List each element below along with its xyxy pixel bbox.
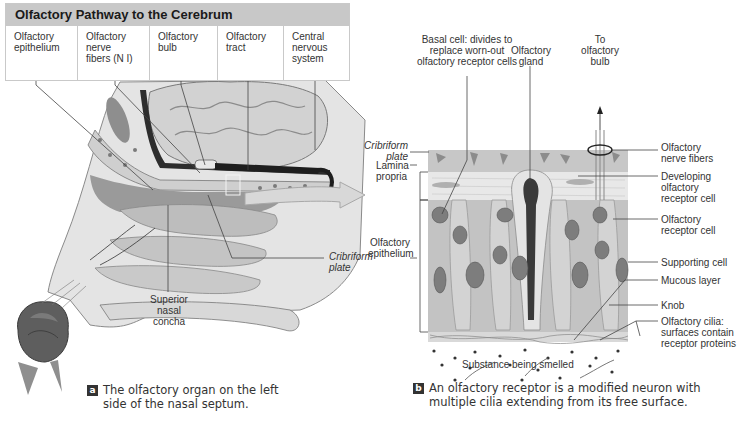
label-line: Mucous layer — [661, 275, 720, 286]
caption-b-line1: An olfactory receptor is a modified neur… — [429, 381, 700, 395]
label-lamina-propria: Lamina propria — [376, 160, 409, 182]
label-line: bulb — [575, 56, 625, 67]
nasal-cavity-illustration — [18, 80, 365, 395]
label-olfactory-nerve-fibers: Olfactory nerve fibers — [661, 142, 713, 164]
label-superior-nasal-concha: Superior nasal concha — [146, 294, 192, 327]
label-line: Olfactory — [508, 45, 554, 56]
caption-a-line1: The olfactory organ on the left — [103, 383, 278, 397]
label-line: surfaces contain — [661, 327, 736, 338]
caption-a-line2: side of the nasal septum. — [87, 397, 278, 411]
label-line: Supporting cell — [661, 257, 727, 268]
label-olfactory-receptor-cell: Olfactory receptor cell — [661, 214, 715, 236]
label-supporting-cell: Supporting cell — [661, 257, 727, 268]
label-line: epithelium — [368, 248, 410, 259]
label-line: Olfactory — [661, 214, 715, 225]
pathway-col-olfactory-epithelium: Olfactory epithelium — [6, 26, 78, 80]
pathway-col-text: system — [292, 53, 349, 64]
pathway-col-central-nervous-system: Central nervous system — [284, 26, 349, 80]
pathway-col-text: Central — [292, 31, 349, 42]
label-line: Olfactory — [368, 237, 410, 248]
label-line: Developing — [661, 171, 715, 182]
label-line: Superior — [146, 294, 192, 305]
pathway-col-text: nerve — [86, 42, 149, 53]
label-line: Lamina — [376, 160, 409, 171]
label-line: Cribriform — [329, 251, 373, 262]
pathway-col-text: Olfactory — [158, 31, 217, 42]
caption-a: aThe olfactory organ on the left side of… — [87, 383, 278, 411]
label-line: receptor proteins — [661, 338, 736, 349]
pathway-col-text: Olfactory — [86, 31, 149, 42]
label-line: Cribriform — [360, 140, 408, 151]
label-developing-receptor-cell: Developing olfactory receptor cell — [661, 171, 715, 204]
pathway-col-text: bulb — [158, 42, 217, 53]
label-line: Olfactory cilia: — [661, 316, 736, 327]
label-line: nerve fibers — [661, 153, 713, 164]
pathway-title: Olfactory Pathway to the Cerebrum — [6, 4, 349, 26]
label-line: receptor cell — [661, 193, 715, 204]
label-cribriform-plate-a: Cribriform plate — [329, 251, 373, 273]
pathway-col-text: fibers (N I) — [86, 53, 149, 64]
label-knob: Knob — [661, 300, 684, 311]
label-line: olfactory — [661, 182, 715, 193]
label-line: Basal cell: divides to — [405, 34, 529, 45]
label-substance-being-smelled: Substance being smelled — [462, 359, 574, 370]
label-mucous-layer: Mucous layer — [661, 275, 720, 286]
pathway-col-text: Olfactory — [14, 31, 77, 42]
pathway-col-text: epithelium — [14, 42, 77, 53]
caption-b-line2: multiple cilia extending from its free s… — [413, 395, 700, 409]
label-line: olfactory — [575, 45, 625, 56]
pathway-col-olfactory-nerve-fibers: Olfactory nerve fibers (N I) — [78, 26, 150, 80]
label-olfactory-cilia: Olfactory cilia: surfaces contain recept… — [661, 316, 736, 349]
label-line: plate — [329, 262, 373, 273]
pathway-col-text: tract — [226, 42, 283, 53]
label-line: To — [575, 34, 625, 45]
label-line: Knob — [661, 300, 684, 311]
label-cribriform-plate-b: Cribriform plate — [360, 140, 408, 162]
label-line: gland — [508, 56, 554, 67]
pathway-col-text: Olfactory — [226, 31, 283, 42]
label-line: propria — [376, 171, 409, 182]
label-line: Olfactory — [661, 142, 713, 153]
olfactory-pathway-table: Olfactory Pathway to the Cerebrum Olfact… — [5, 3, 350, 81]
rose-icon — [18, 302, 69, 395]
pathway-col-olfactory-tract: Olfactory tract — [218, 26, 284, 80]
label-line: concha — [146, 316, 192, 327]
epithelium-illustration — [428, 106, 628, 382]
label-line: receptor cell — [661, 225, 715, 236]
label-olfactory-gland: Olfactory gland — [508, 45, 554, 67]
label-olfactory-epithelium-b: Olfactory epithelium — [368, 237, 410, 259]
panel-badge-a: a — [87, 385, 98, 396]
label-to-olfactory-bulb: To olfactory bulb — [575, 34, 625, 67]
label-line: Substance being smelled — [462, 359, 574, 370]
panel-badge-b: b — [413, 383, 424, 394]
pathway-columns: Olfactory epithelium Olfactory nerve fib… — [6, 26, 349, 80]
caption-b: bAn olfactory receptor is a modified neu… — [413, 381, 700, 409]
pathway-col-text: nervous — [292, 42, 349, 53]
label-line: nasal — [146, 305, 192, 316]
pathway-col-olfactory-bulb: Olfactory bulb — [150, 26, 218, 80]
